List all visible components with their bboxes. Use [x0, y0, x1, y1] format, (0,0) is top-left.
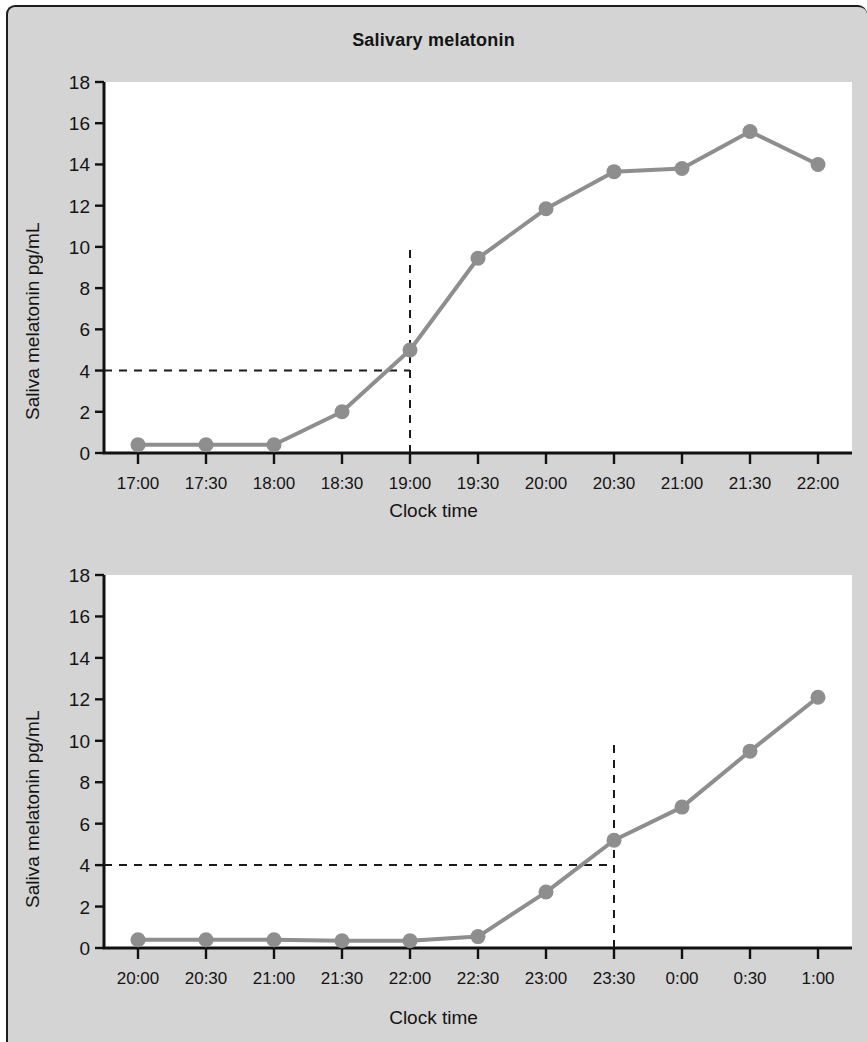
data-point-marker[interactable] [675, 161, 690, 176]
y-tick-label: 6 [79, 319, 90, 340]
data-point-marker[interactable] [811, 157, 826, 172]
plot-area-bottom: 02468101214161820:0020:3021:0021:3022:00… [0, 493, 867, 1042]
data-point-marker[interactable] [403, 933, 418, 948]
data-point-marker[interactable] [131, 437, 146, 452]
x-tick-label: 19:30 [457, 474, 500, 493]
y-tick-label: 8 [79, 772, 90, 793]
x-tick-label: 21:30 [729, 474, 772, 493]
data-point-marker[interactable] [267, 437, 282, 452]
x-tick-label: 20:30 [185, 969, 228, 988]
y-tick-label: 14 [69, 648, 91, 669]
x-tick-label: 1:00 [801, 969, 834, 988]
data-point-marker[interactable] [743, 124, 758, 139]
data-point-marker[interactable] [403, 342, 418, 357]
y-tick-label: 0 [79, 938, 90, 959]
x-tick-label: 21:00 [253, 969, 296, 988]
x-tick-label: 21:00 [661, 474, 704, 493]
x-tick-label: 20:30 [593, 474, 636, 493]
x-tick-label: 18:30 [321, 474, 364, 493]
y-tick-label: 4 [79, 361, 90, 382]
data-point-marker[interactable] [335, 404, 350, 419]
figure-salivary-melatonin: Salivary melatonin Saliva melatonin pg/m… [0, 0, 867, 1042]
data-point-marker[interactable] [539, 885, 554, 900]
x-tick-label: 17:00 [117, 474, 160, 493]
data-point-marker[interactable] [267, 932, 282, 947]
data-point-marker[interactable] [811, 690, 826, 705]
x-tick-label: 23:30 [593, 969, 636, 988]
data-point-marker[interactable] [607, 833, 622, 848]
y-tick-label: 16 [69, 606, 90, 627]
y-tick-label: 16 [69, 113, 90, 134]
y-tick-label: 2 [79, 897, 90, 918]
data-point-marker[interactable] [131, 932, 146, 947]
y-tick-label: 8 [79, 278, 90, 299]
data-point-marker[interactable] [471, 251, 486, 266]
data-point-marker[interactable] [539, 201, 554, 216]
x-tick-label: 23:00 [525, 969, 568, 988]
y-tick-label: 18 [69, 72, 90, 93]
y-tick-label: 10 [69, 237, 90, 258]
y-tick-label: 18 [69, 565, 90, 586]
x-tick-label: 20:00 [525, 474, 568, 493]
data-point-marker[interactable] [471, 929, 486, 944]
x-tick-label: 20:00 [117, 969, 160, 988]
x-tick-label: 0:30 [733, 969, 766, 988]
data-point-marker[interactable] [675, 800, 690, 815]
chart-panel-bottom: Saliva melatonin pg/mL Clock time 024681… [0, 493, 867, 1042]
y-tick-label: 6 [79, 814, 90, 835]
x-tick-label: 18:00 [253, 474, 296, 493]
y-tick-label: 12 [69, 689, 90, 710]
x-tick-label: 21:30 [321, 969, 364, 988]
y-tick-label: 14 [69, 154, 91, 175]
data-point-marker[interactable] [607, 164, 622, 179]
data-point-marker[interactable] [743, 744, 758, 759]
x-tick-label: 22:00 [797, 474, 840, 493]
x-tick-label: 19:00 [389, 474, 432, 493]
x-tick-label: 22:00 [389, 969, 432, 988]
y-tick-label: 4 [79, 855, 90, 876]
y-tick-label: 10 [69, 731, 90, 752]
plot-area-top: 02468101214161817:0017:3018:0018:3019:00… [0, 0, 867, 530]
x-tick-label: 17:30 [185, 474, 228, 493]
x-tick-label: 0:00 [665, 969, 698, 988]
y-tick-label: 2 [79, 402, 90, 423]
chart-panel-top: Saliva melatonin pg/mL Clock time 024681… [0, 0, 867, 530]
y-tick-label: 12 [69, 196, 90, 217]
data-point-marker[interactable] [335, 933, 350, 948]
data-point-marker[interactable] [199, 932, 214, 947]
data-point-marker[interactable] [199, 437, 214, 452]
x-tick-label: 22:30 [457, 969, 500, 988]
y-tick-label: 0 [79, 443, 90, 464]
